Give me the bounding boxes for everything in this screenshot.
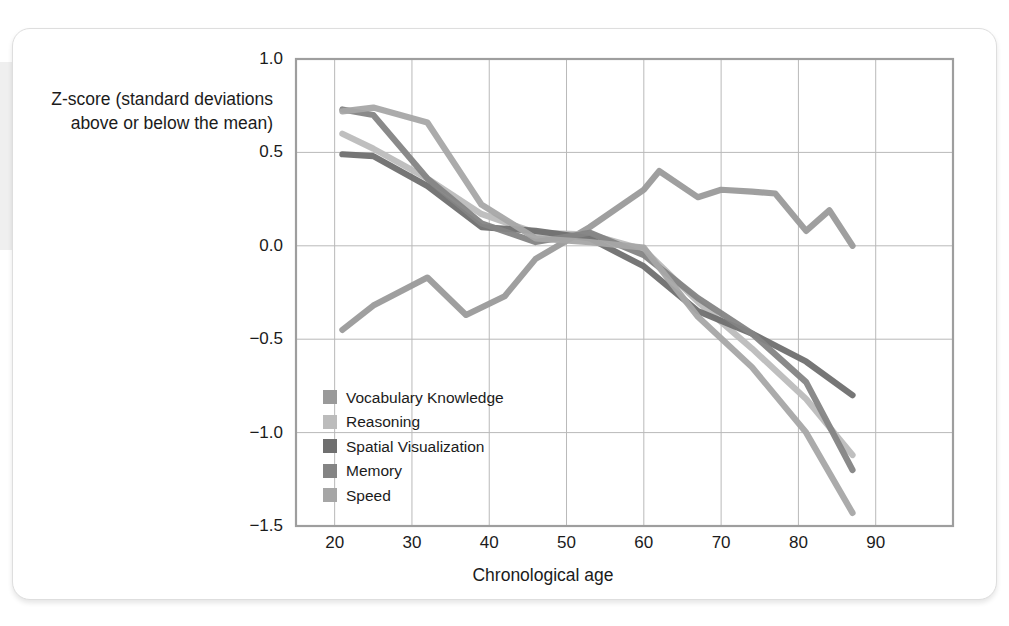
x-axis-label: Chronological age <box>13 565 998 586</box>
legend-item: Reasoning <box>323 410 504 435</box>
line-chart-plot <box>13 29 998 601</box>
legend-item: Memory <box>323 459 504 484</box>
legend-item: Vocabulary Knowledge <box>323 385 504 410</box>
legend-color-swatch <box>323 464 337 478</box>
legend-item-label: Vocabulary Knowledge <box>346 390 504 406</box>
legend-color-swatch <box>323 488 337 502</box>
legend-item-label: Speed <box>346 488 391 504</box>
legend-color-swatch <box>323 415 337 429</box>
legend-item-label: Reasoning <box>346 414 420 430</box>
legend-color-swatch <box>323 390 337 404</box>
figure-card: Z-score (standard deviations above or be… <box>12 28 997 600</box>
legend-item-label: Spatial Visualization <box>346 439 484 455</box>
legend-color-swatch <box>323 439 337 453</box>
legend-item: Speed <box>323 483 504 508</box>
legend-item-label: Memory <box>346 463 402 479</box>
chart-legend: Vocabulary KnowledgeReasoningSpatial Vis… <box>323 385 504 508</box>
legend-item: Spatial Visualization <box>323 434 504 459</box>
